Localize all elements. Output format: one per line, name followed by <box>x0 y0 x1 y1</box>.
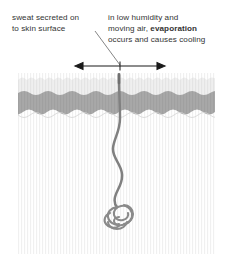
annotation-right-line1: in low humidity and <box>108 12 205 23</box>
annotation-left-line2: to skin surface <box>12 23 79 34</box>
annotation-left-line1: sweat secreted on <box>12 12 79 23</box>
annotation-right-line3: occurs and causes cooling <box>108 34 205 45</box>
diagram-canvas: sweat secreted on to skin surface in low… <box>0 0 231 274</box>
annotation-right-line2: moving air, evaporation <box>108 23 205 34</box>
annotation-right-line2-prefix: moving air, <box>108 24 150 33</box>
evaporation-spread-arrow <box>75 62 165 71</box>
annotation-right-emphasis: evaporation <box>150 24 197 33</box>
dermis-layer <box>10 91 223 115</box>
annotation-right: in low humidity and moving air, evaporat… <box>108 12 205 46</box>
annotation-left: sweat secreted on to skin surface <box>12 12 79 34</box>
